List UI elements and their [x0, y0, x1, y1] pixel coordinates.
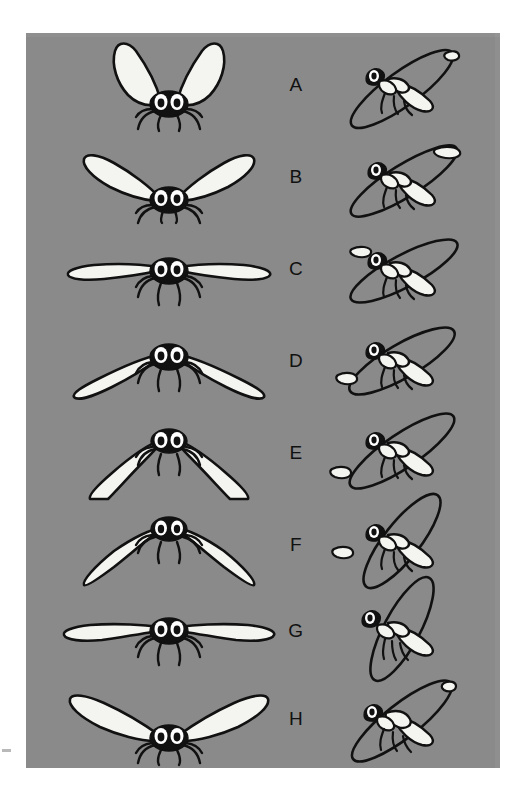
stage-label-h: H	[274, 673, 318, 765]
front-view-b	[60, 131, 278, 223]
sequence-row: E	[26, 407, 500, 499]
side-view-h	[322, 673, 494, 765]
side-view-b	[322, 131, 494, 223]
sequence-row: A	[26, 39, 500, 131]
side-view-f	[322, 499, 494, 591]
front-view-e	[60, 407, 278, 499]
front-view-h	[60, 673, 278, 765]
sequence-row: H	[26, 673, 500, 765]
stage-label-a: A	[274, 39, 318, 131]
stage-label-g: G	[274, 585, 318, 677]
side-view-d	[322, 315, 494, 407]
panel-highlight-top	[26, 33, 500, 37]
figure-root: A	[0, 0, 528, 790]
side-view-a	[322, 39, 494, 131]
stage-label-f: F	[274, 499, 318, 591]
front-view-a	[60, 39, 278, 131]
stage-label-c: C	[274, 223, 318, 315]
illustration-panel: A	[26, 33, 500, 768]
sequence-row: C	[26, 223, 500, 315]
side-view-g	[322, 585, 494, 677]
stage-label-b: B	[274, 131, 318, 223]
stage-label-d: D	[274, 315, 318, 407]
side-view-e	[322, 407, 494, 499]
stage-label-e: E	[274, 407, 318, 499]
front-view-d	[60, 315, 278, 407]
sequence-row: B	[26, 131, 500, 223]
sequence-row: D	[26, 315, 500, 407]
side-view-c	[322, 223, 494, 315]
front-view-c	[60, 223, 278, 315]
margin-registration-tick	[2, 749, 11, 752]
sequence-row: G	[26, 585, 500, 677]
front-view-g	[60, 585, 278, 677]
front-view-f	[60, 499, 278, 591]
